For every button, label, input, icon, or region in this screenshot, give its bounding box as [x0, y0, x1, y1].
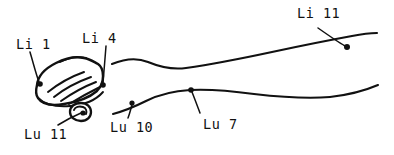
lower-arm-contour — [113, 85, 378, 114]
point-label-li-4: Li 4 — [82, 32, 117, 46]
leader-line-li-4 — [103, 46, 106, 83]
point-label-lu-7: Lu 7 — [203, 118, 238, 132]
point-dot-li-4 — [100, 82, 106, 88]
upper-arm-contour — [112, 33, 377, 69]
point-dot-lu-10 — [129, 100, 134, 105]
point-label-li-1: Li 1 — [16, 38, 51, 52]
point-dot-li-1 — [37, 81, 43, 87]
point-label-lu-11: Lu 11 — [24, 128, 67, 142]
point-label-lu-10: Lu 10 — [110, 121, 153, 135]
point-label-li-11: Li 11 — [297, 7, 340, 21]
hand-fist-outline — [36, 57, 103, 105]
leader-line-lu-10 — [128, 105, 132, 118]
leader-line-lu-7 — [192, 92, 200, 113]
acupuncture-figure: Li 1 Li 4 Li 11 Lu 11 Lu 10 Lu 7 — [0, 0, 394, 155]
point-dot-lu-11 — [80, 110, 85, 115]
point-dot-li-11 — [344, 44, 350, 50]
leader-line-li-1 — [30, 52, 39, 82]
point-dot-lu-7 — [188, 87, 194, 93]
